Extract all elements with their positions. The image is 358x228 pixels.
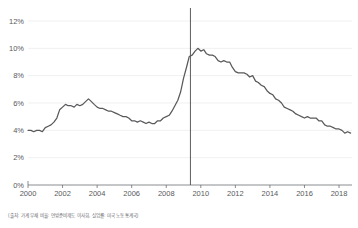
x-tick-label-2010: 2010 <box>192 189 209 198</box>
chart-plot-area: 0%2%4%6%8%10%12% 20002002200420062008201… <box>0 0 358 228</box>
x-tick-label-2004: 2004 <box>89 189 106 198</box>
x-tick-label-2008: 2008 <box>158 189 175 198</box>
unemployment-rate-line <box>28 48 351 133</box>
y-axis-tick-labels: 0%2%4%6%8%10%12% <box>9 17 24 190</box>
x-tick-label-2016: 2016 <box>296 189 313 198</box>
x-tick-label-2002: 2002 <box>54 189 71 198</box>
x-axis-tick-marks <box>28 185 339 188</box>
x-axis-tick-labels: 2000200220042006200820102012201420162018 <box>20 189 348 198</box>
x-tick-label-2018: 2018 <box>331 189 348 198</box>
source-footnote: (출처: 가계 부채 비율: 연방준비제도 이사회, 실업률: 미국 노동통계국… <box>8 212 138 218</box>
x-tick-label-2006: 2006 <box>123 189 140 198</box>
x-tick-label-2012: 2012 <box>227 189 244 198</box>
y-tick-label-6%: 6% <box>13 99 24 108</box>
y-tick-label-2%: 2% <box>13 153 24 162</box>
x-tick-label-2000: 2000 <box>20 189 37 198</box>
x-tick-label-2014: 2014 <box>262 189 279 198</box>
y-tick-label-12%: 12% <box>9 17 24 26</box>
y-tick-label-4%: 4% <box>13 126 24 135</box>
y-tick-label-8%: 8% <box>13 71 24 80</box>
y-tick-label-10%: 10% <box>9 44 24 53</box>
unemployment-rate-chart: 0%2%4%6%8%10%12% 20002002200420062008201… <box>0 0 358 228</box>
